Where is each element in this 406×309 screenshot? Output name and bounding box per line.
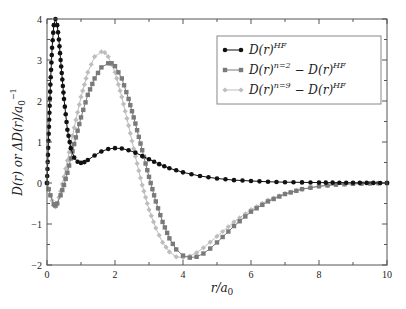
x-tick-label: 0 (45, 269, 50, 280)
chart: 0246810−2−101234 D(r)HFD(r)n=2 − D(r)HFD… (0, 0, 406, 309)
x-tick-label: 10 (382, 269, 392, 280)
x-tick-label: 2 (113, 269, 118, 280)
y-tick-label: −2 (31, 260, 42, 271)
y-tick-label: 1 (37, 137, 42, 148)
x-tick-label: 4 (181, 269, 186, 280)
y-tick-label: −1 (31, 219, 42, 230)
legend: D(r)HFD(r)n=2 − D(r)HFD(r)n=9 − D(r)HF (217, 36, 381, 104)
y-tick-label: 3 (37, 55, 42, 66)
y-tick-label: 0 (37, 178, 42, 189)
x-tick-label: 8 (317, 269, 322, 280)
y-tick-label: 4 (37, 14, 42, 25)
y-tick-label: 2 (37, 96, 42, 107)
x-tick-label: 6 (249, 269, 254, 280)
legend-label: D(r)n=2 − D(r)HF (248, 61, 346, 77)
legend-label: D(r)n=9 − D(r)HF (248, 81, 346, 97)
